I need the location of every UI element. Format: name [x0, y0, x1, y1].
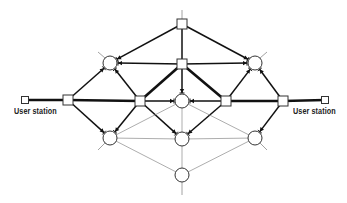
arrowhead-icon: [190, 99, 194, 103]
arrowhead-icon: [170, 99, 174, 103]
relay-node-circle: [103, 56, 117, 70]
relay-node-circle: [103, 131, 117, 145]
link-top-cr: [182, 24, 248, 59]
link-lr-bot: [182, 138, 255, 175]
arrowhead-icon: [118, 61, 122, 65]
relay-node-circle: [175, 168, 189, 182]
stub-line: [260, 52, 267, 58]
switch-node-square: [63, 95, 73, 105]
link-ll-bot: [110, 138, 182, 175]
user-station-right-label: User station: [293, 106, 336, 116]
switch-node-square: [135, 96, 145, 106]
link-ll-lm: [110, 138, 182, 139]
link-cu-mr2: [182, 64, 226, 101]
link-mr1-us_r: [283, 100, 325, 101]
relay-node-circle: [248, 131, 262, 145]
arrowhead-icon: [243, 61, 247, 65]
link-ml2-cu: [140, 64, 182, 101]
switch-node-square: [177, 59, 187, 69]
network-diagram: [0, 0, 347, 203]
relay-node-circle: [175, 94, 189, 108]
user-station-node: [322, 97, 329, 104]
link-cu-cr: [182, 63, 247, 64]
link-ml1-ml2: [68, 100, 140, 101]
arrowhead-icon: [180, 89, 184, 93]
nodes: [22, 19, 329, 182]
link-lm-lr: [182, 138, 255, 139]
link-top-cl: [117, 24, 182, 59]
stub-line: [98, 143, 105, 150]
switch-node-square: [221, 96, 231, 106]
stub-line: [98, 52, 105, 58]
user-station-left-label: User station: [14, 106, 57, 116]
switch-node-square: [177, 19, 187, 29]
switch-node-square: [278, 96, 288, 106]
relay-node-circle: [175, 132, 189, 146]
user-station-node: [22, 97, 29, 104]
relay-node-circle: [248, 56, 262, 70]
link-mr2-lm: [188, 101, 226, 134]
stub-line: [260, 143, 267, 150]
link-cu-cl: [118, 63, 182, 64]
